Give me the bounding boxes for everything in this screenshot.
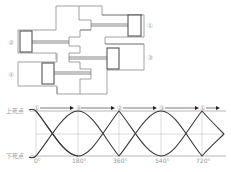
tick-360: 360° — [113, 157, 127, 164]
sequence-label-3: ③ — [159, 104, 164, 111]
wave-a — [29, 109, 224, 156]
pistons — [20, 15, 141, 84]
piston-2 — [20, 31, 32, 52]
tick-720: 720° — [196, 157, 210, 164]
cylinder-4-label: ④ — [8, 71, 14, 79]
sequence-label-4: ① — [200, 104, 205, 111]
wave-b — [29, 111, 224, 158]
piston-4 — [42, 63, 54, 84]
arrowhead-3 — [153, 106, 157, 110]
tick-0: 0° — [34, 157, 41, 164]
bottom-dead-center-label: 下死点 — [6, 152, 24, 160]
timing-chart — [29, 106, 226, 158]
boxer-engine-diagram: ① ② ③ ④ ① ④ ② ③ ① 上死点 下死点 0° 180° 3 — [0, 0, 231, 172]
piston-3 — [107, 48, 119, 69]
arrowhead-5 — [216, 106, 220, 110]
piston-1 — [128, 15, 141, 36]
top-dead-center-label: 上死点 — [6, 107, 24, 115]
sequence-label-1: ④ — [76, 104, 81, 111]
crank-web-outline — [57, 30, 91, 94]
arrowhead-1 — [70, 106, 74, 110]
arrowhead-4 — [195, 106, 199, 110]
sequence-label-2: ② — [117, 104, 122, 111]
cylinder-2-label: ② — [8, 39, 14, 47]
wave-c — [36, 111, 78, 156]
cylinder-1-label: ① — [147, 22, 153, 30]
engine-block — [18, 6, 144, 94]
tick-180: 180° — [72, 157, 86, 164]
tick-540: 540° — [155, 157, 169, 164]
cylinder-1-bore — [79, 6, 91, 30]
arrowhead-2 — [111, 106, 115, 110]
sequence-label-0: ① — [34, 104, 39, 111]
cylinder-3-label: ③ — [147, 54, 153, 62]
